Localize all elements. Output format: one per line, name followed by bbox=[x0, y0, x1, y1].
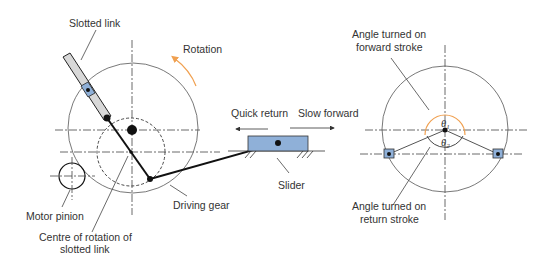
radius-left bbox=[389, 130, 445, 154]
label-slow-forward: Slow forward bbox=[298, 107, 359, 119]
label-return-line1: Angle turned on bbox=[352, 200, 426, 212]
forward-leader bbox=[391, 58, 429, 110]
gear-centre-dot bbox=[127, 125, 137, 135]
driving-gear-leader bbox=[170, 185, 187, 196]
label-slotted-link: Slotted link bbox=[69, 17, 121, 29]
slotted-link-leader bbox=[81, 30, 96, 60]
theta1-label: θ1 bbox=[441, 118, 450, 131]
slider bbox=[228, 136, 325, 158]
label-forward-line2: forward stroke bbox=[356, 41, 423, 53]
label-quick-return: Quick return bbox=[231, 107, 288, 119]
label-return-line2: return stroke bbox=[360, 213, 419, 225]
centre-leader bbox=[92, 156, 128, 232]
label-driving-gear: Driving gear bbox=[173, 199, 230, 211]
theta2-label: θ2 bbox=[441, 137, 450, 150]
rotation-arrow-icon bbox=[174, 58, 196, 86]
return-leader bbox=[393, 147, 430, 205]
quick-return-diagram: Slotted link Rotation Quick return Slow … bbox=[0, 0, 549, 259]
label-rotation: Rotation bbox=[183, 43, 222, 55]
label-slider: Slider bbox=[278, 179, 305, 191]
slider-leader bbox=[277, 158, 289, 173]
label-motor-pinion: Motor pinion bbox=[26, 210, 84, 222]
label-forward-line1: Angle turned on bbox=[352, 28, 426, 40]
stroke-angle-diagram: θ1 θ2 Angle turned on forward stroke Ang… bbox=[352, 28, 528, 225]
left-mechanism: Slotted link Rotation Quick return Slow … bbox=[26, 17, 359, 255]
radius-right bbox=[445, 130, 498, 154]
motor-pinion-leader bbox=[62, 190, 70, 207]
label-centre-line1: Centre of rotation of bbox=[39, 231, 132, 243]
label-centre-line2: slotted link bbox=[60, 243, 110, 255]
pivot-point bbox=[129, 150, 133, 154]
